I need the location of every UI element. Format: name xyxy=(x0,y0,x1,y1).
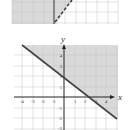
svg-text:-2: -2 xyxy=(41,99,45,104)
inequality-graphs: y x -4 -3 -2 -1 1 2 3 4 4 3 2 1 -1 -2 -3 xyxy=(0,0,130,130)
svg-text:-3: -3 xyxy=(31,99,35,104)
svg-text:2: 2 xyxy=(60,74,62,79)
top-graph xyxy=(12,0,118,24)
svg-text:-3: -3 xyxy=(58,126,62,130)
y-axis-label: y xyxy=(60,34,65,44)
svg-text:-4: -4 xyxy=(20,99,24,104)
svg-text:1: 1 xyxy=(74,99,76,104)
svg-text:2: 2 xyxy=(84,99,86,104)
bottom-graph: y x -4 -3 -2 -1 1 2 3 4 4 3 2 1 -1 -2 -3 xyxy=(14,34,122,130)
svg-text:-1: -1 xyxy=(58,106,62,111)
svg-text:-2: -2 xyxy=(58,116,62,121)
x-axis-label: x xyxy=(117,92,122,102)
svg-text:-1: -1 xyxy=(52,99,56,104)
svg-text:1: 1 xyxy=(60,85,62,90)
